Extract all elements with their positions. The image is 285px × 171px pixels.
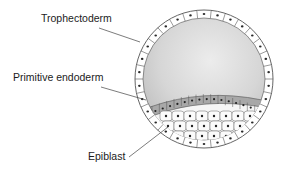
label-primitive-endoderm: Primitive endoderm [13,72,103,83]
epiblast-leader-line [129,127,168,157]
label-trophectoderm: Trophectoderm [41,13,112,24]
label-epiblast: Epiblast [88,151,125,162]
blastocyst-illustration [0,0,285,171]
blastocyst-diagram: Trophectoderm Primitive endoderm Epiblas… [0,0,285,171]
trophectoderm-leader-line [99,28,140,42]
